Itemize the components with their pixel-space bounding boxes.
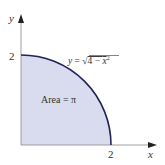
y-tick-label: 2 <box>9 50 15 62</box>
x-axis-label: x <box>147 148 153 160</box>
area-label: Area = π <box>41 94 76 105</box>
curve-equation: y = √4 − x2 <box>67 55 110 66</box>
quarter-circle-diagram: y 2 2 x y = √4 − x2 Area = π <box>0 0 165 165</box>
x-tick-label: 2 <box>108 148 114 160</box>
y-axis-label: y <box>8 12 14 24</box>
y-axis-arrow-icon <box>18 14 24 23</box>
